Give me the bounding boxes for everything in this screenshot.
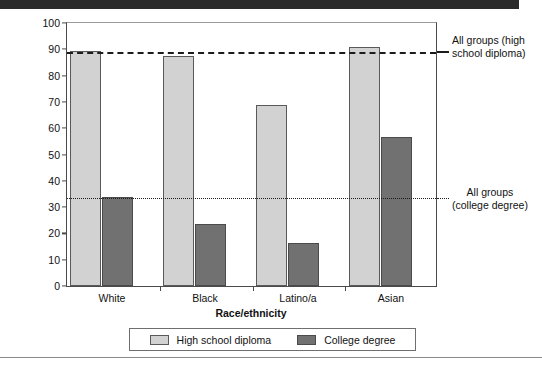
reference-annotation-college-line2: (college degree) [452, 199, 528, 212]
reference-annotation-high-school: All groups (high school diploma) [452, 34, 526, 59]
y-tick-0: 0 [54, 280, 67, 292]
bar-white-high-school [70, 51, 101, 286]
bar-chart: Percentage who complete education 100 90… [0, 0, 542, 366]
reference-line-college [67, 198, 436, 199]
reference-line-college-stub [437, 198, 449, 199]
reference-annotation-college-line1: All groups [452, 186, 528, 199]
x-tick-label-black: Black [192, 292, 218, 304]
legend-item-high-school-diploma: High school diploma [150, 334, 272, 346]
x-tick-mark-2 [253, 286, 254, 291]
reference-line-high-school [67, 52, 436, 54]
reference-annotation-college: All groups (college degree) [452, 186, 528, 211]
legend-item-college-degree: College degree [297, 334, 395, 346]
x-tick-label-latino: Latino/a [279, 292, 316, 304]
bar-latino-high-school [256, 105, 287, 286]
y-tick-70: 70 [48, 96, 67, 108]
bar-asian-college [381, 137, 412, 286]
bar-black-college [195, 224, 226, 286]
dark-gray-swatch-icon [297, 335, 316, 345]
x-tick-mark-1 [160, 286, 161, 291]
legend-label-high-school-diploma: High school diploma [177, 334, 272, 346]
y-tick-90: 90 [48, 43, 67, 55]
bar-black-high-school [163, 56, 194, 286]
bar-white-college [102, 197, 133, 286]
y-tick-80: 80 [48, 70, 67, 82]
x-tick-mark-3 [345, 286, 346, 291]
reference-annotation-high-school-line1: All groups (high [452, 34, 526, 47]
x-axis-title: Race/ethnicity [215, 307, 286, 319]
bar-latino-college [288, 243, 319, 286]
chart-legend: High school diploma College degree [129, 328, 416, 351]
y-tick-30: 30 [48, 201, 67, 213]
x-tick-label-asian: Asian [378, 292, 404, 304]
plot-area: 100 90 80 70 60 50 40 30 20 10 0 [66, 22, 437, 287]
y-tick-50: 50 [48, 149, 67, 161]
y-tick-20: 20 [48, 227, 67, 239]
bottom-divider-rule [0, 357, 542, 358]
x-tick-label-white: White [99, 292, 126, 304]
y-tick-40: 40 [48, 175, 67, 187]
y-tick-10: 10 [48, 254, 67, 266]
light-gray-swatch-icon [150, 335, 169, 345]
bar-asian-high-school [349, 47, 380, 286]
reference-annotation-high-school-line2: school diploma) [452, 47, 526, 60]
reference-line-high-school-stub [437, 51, 449, 53]
y-tick-100: 100 [42, 17, 67, 29]
legend-label-college-degree: College degree [324, 334, 395, 346]
y-tick-60: 60 [48, 122, 67, 134]
